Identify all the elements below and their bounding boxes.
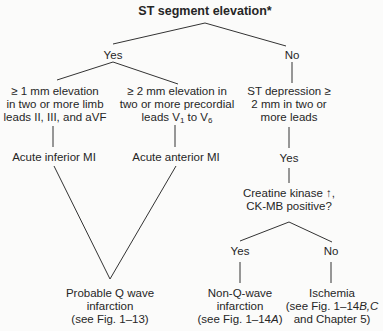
ecg-flowchart: ST segment elevation* Yes No ≥ 1 mm elev…: [0, 0, 383, 331]
connector-lines: [0, 0, 383, 331]
node-inferior-criteria: ≥ 1 mm elevation in two or more limb lea…: [4, 85, 107, 124]
label-depression-yes: Yes: [280, 152, 299, 165]
label-yes: Yes: [104, 49, 123, 62]
node-st-elevation: ST segment elevation*: [138, 5, 271, 18]
node-q-wave-infarction: Probable Q wave infarction (see Fig. 1–1…: [66, 287, 154, 326]
node-acute-anterior-mi: Acute anterior MI: [132, 151, 220, 164]
label-ck-no: No: [324, 245, 339, 258]
node-acute-inferior-mi: Acute inferior MI: [12, 151, 96, 164]
node-ck-question: Creatine kinase ↑, CK-MB positive?: [243, 187, 335, 213]
node-non-q-wave-infarction: Non-Q-wave infarction (see Fig. 1–14A): [197, 287, 282, 326]
node-ischemia: Ischemia (see Fig. 1–14B,C and Chapter 5…: [286, 287, 379, 326]
node-st-depression: ST depression ≥ 2 mm in two or more lead…: [247, 85, 330, 124]
label-ck-yes: Yes: [231, 245, 250, 258]
node-anterior-criteria: ≥ 2 mm elevation in two or more precordi…: [120, 85, 234, 124]
label-no: No: [285, 49, 300, 62]
